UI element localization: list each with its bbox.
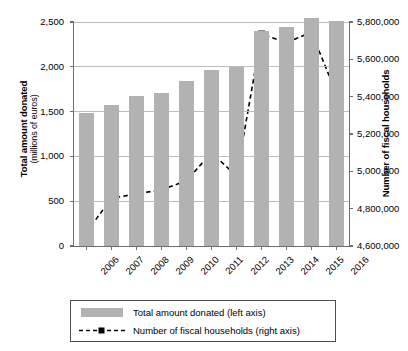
x-axis-tick — [136, 246, 137, 250]
x-axis-tick — [211, 246, 212, 250]
y-axis-right-tick — [349, 171, 353, 172]
legend-marker-line — [71, 325, 133, 336]
legend-swatch-bar — [71, 308, 133, 317]
bar — [254, 31, 269, 246]
y-axis-right-tick — [349, 21, 353, 22]
x-axis-tick — [336, 246, 337, 250]
y-axis-right-tick-label: 5,400,000 — [357, 91, 408, 102]
y-axis-left-tick-label: 1,000 — [6, 150, 64, 161]
y-axis-right-tick — [349, 96, 353, 97]
x-axis-tick-label: 2016 — [348, 254, 371, 277]
x-axis-tick-label: 2007 — [123, 254, 146, 277]
x-axis-tick — [186, 246, 187, 250]
y-axis-left-tick — [70, 111, 74, 112]
x-axis-tick-label: 2011 — [222, 254, 244, 276]
legend-label-bar: Total amount donated (left axis) — [133, 307, 266, 318]
legend-item-line: Number of fiscal households (right axis) — [71, 322, 335, 339]
y-axis-left-tick-label: 2,500 — [6, 16, 64, 27]
x-axis-tick-label: 2008 — [148, 254, 171, 277]
legend-item-bars: Total amount donated (left axis) — [71, 304, 335, 321]
y-axis-right-tick-label: 4,600,000 — [357, 240, 408, 251]
x-axis-tick — [236, 246, 237, 250]
y-axis-left-tick — [70, 21, 74, 22]
dashed-line-square-marker-icon — [78, 325, 126, 336]
y-axis-right-tick — [349, 133, 353, 134]
y-axis-left-tick-label: 500 — [6, 195, 64, 206]
x-axis-tick-label: 2010 — [198, 254, 221, 277]
legend-label-line: Number of fiscal households (right axis) — [133, 325, 300, 336]
x-axis-tick-label: 2013 — [273, 254, 296, 277]
y-axis-left-tick — [70, 201, 74, 202]
y-axis-left-tick — [70, 156, 74, 157]
bar — [229, 67, 244, 246]
bar — [104, 105, 119, 246]
y-axis-left-title: Total amount donated (millions of euros) — [18, 49, 40, 209]
y-axis-right-tick-label: 5,200,000 — [357, 128, 408, 139]
x-axis-tick-label: 2012 — [248, 254, 271, 277]
chart-legend: Total amount donated (left axis) Number … — [70, 300, 336, 342]
plot-area: 05001,0001,5002,0002,5004,600,0004,800,0… — [73, 22, 350, 247]
x-axis-tick — [261, 246, 262, 250]
y-axis-left-tick-label: 0 — [6, 240, 64, 251]
chart-container: Total amount donated (millions of euros)… — [0, 0, 408, 351]
x-axis-tick-label: 2015 — [323, 254, 346, 277]
y-axis-right-tick — [349, 208, 353, 209]
y-axis-left-tick-label: 2,000 — [6, 61, 64, 72]
x-axis-tick — [161, 246, 162, 250]
x-axis-tick — [311, 246, 312, 250]
bar — [279, 27, 294, 246]
y-axis-right-tick — [349, 59, 353, 60]
bar — [304, 18, 319, 246]
y-axis-right-tick-label: 4,800,000 — [357, 203, 408, 214]
y-axis-right-tick-label: 5,000,000 — [357, 165, 408, 176]
bar — [204, 70, 219, 246]
y-axis-left-tick — [70, 245, 74, 246]
x-axis-tick-label: 2009 — [173, 254, 196, 277]
bar — [179, 81, 194, 246]
x-axis-tick-label: 2006 — [98, 254, 121, 277]
x-axis-tick — [86, 246, 87, 250]
y-axis-left-tick — [70, 66, 74, 67]
y-axis-right-tick — [349, 245, 353, 246]
bar — [329, 21, 344, 246]
x-axis-tick-label: 2014 — [298, 254, 321, 277]
y-axis-left-title-units: (millions of euros) — [29, 49, 40, 209]
y-axis-left-tick-label: 1,500 — [6, 106, 64, 117]
y-axis-right-tick-label: 5,600,000 — [357, 53, 408, 64]
x-axis-tick — [286, 246, 287, 250]
y-axis-right-tick-label: 5,800,000 — [357, 16, 408, 27]
bar — [154, 93, 169, 246]
y-axis-left-title-main: Total amount donated — [18, 81, 29, 178]
bar — [129, 96, 144, 246]
x-axis-tick — [111, 246, 112, 250]
bar — [79, 113, 94, 246]
